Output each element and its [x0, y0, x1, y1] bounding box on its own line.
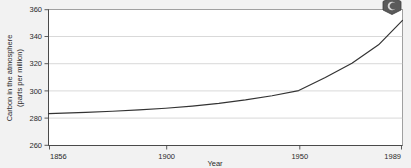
x-tick-label-1900: 1900: [158, 152, 175, 161]
plot-area: [49, 10, 403, 146]
y-axis-title-line2: (parts per million): [15, 49, 24, 107]
x-tick-label-1950: 1950: [291, 152, 308, 161]
y-tick-label-300: 300: [29, 87, 42, 96]
y-tick-label-360: 360: [29, 5, 42, 14]
y-axis-title-line1: Carbon in the atmosphere: [5, 35, 14, 122]
co2-line-chart: 260 280 300 320 340 360 1856 1900 1950 1…: [0, 0, 411, 168]
chart-figure: 260 280 300 320 340 360 1856 1900 1950 1…: [0, 0, 411, 168]
x-tick-label-1856: 1856: [50, 152, 67, 161]
y-tick-label-260: 260: [29, 141, 42, 150]
y-tick-label-280: 280: [29, 114, 42, 123]
x-axis-title: Year: [207, 159, 223, 168]
hexagon-badge-icon: [381, 0, 403, 16]
x-tick-label-1989: 1989: [384, 152, 401, 161]
y-tick-label-340: 340: [29, 32, 42, 41]
y-tick-label-320: 320: [29, 59, 42, 68]
